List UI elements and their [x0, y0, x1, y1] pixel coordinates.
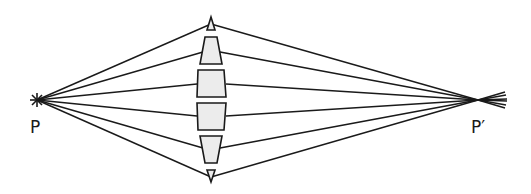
lower-prism [200, 136, 222, 163]
ray-in-2 [37, 52, 203, 100]
upper-block [197, 70, 226, 97]
upper-prism [200, 37, 222, 64]
ray-in-3 [37, 84, 197, 100]
ray-in-5 [37, 100, 203, 148]
ray-out-4 [226, 100, 478, 116]
ray-in-6 [37, 100, 211, 177]
lens [197, 17, 226, 182]
lower-block [197, 103, 226, 130]
ray-out-1 [211, 24, 478, 100]
ray-out-6 [211, 100, 478, 177]
ray-out-2 [220, 52, 478, 100]
lens-diagram: P P′ [0, 0, 531, 194]
rays [37, 24, 507, 177]
ray-in-1 [37, 24, 211, 100]
ray-out-5 [220, 100, 478, 148]
source-star-icon [30, 93, 44, 107]
top-prism-tip [207, 17, 215, 30]
ray-out-3 [226, 84, 478, 100]
ray-in-4 [37, 100, 197, 116]
source-label: P [30, 119, 40, 136]
bottom-prism-tip [207, 170, 215, 182]
image-label: P′ [471, 119, 485, 136]
